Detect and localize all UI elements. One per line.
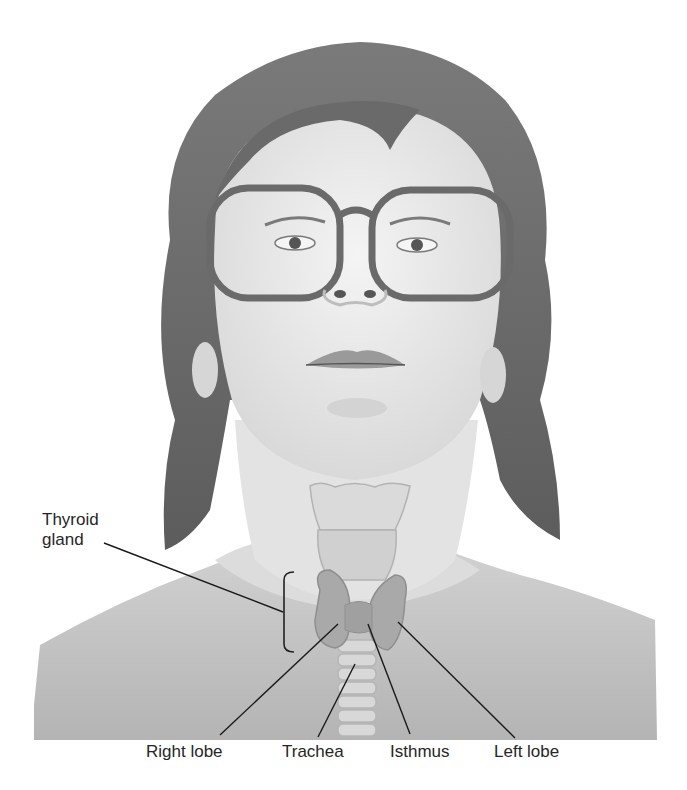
isthmus-shape (345, 602, 372, 634)
thyroid-diagram: Thyroid gland Right lobe Trachea Isthmus… (0, 0, 687, 790)
label-left-lobe: Left lobe (494, 742, 559, 762)
label-thyroid-gland: Thyroid gland (42, 510, 122, 550)
label-trachea: Trachea (282, 742, 344, 762)
label-right-lobe: Right lobe (146, 742, 223, 762)
label-thyroid-gland-line1: Thyroid (42, 510, 122, 530)
label-isthmus: Isthmus (390, 742, 450, 762)
label-thyroid-gland-line2: gland (42, 530, 122, 550)
illustration (0, 0, 687, 790)
